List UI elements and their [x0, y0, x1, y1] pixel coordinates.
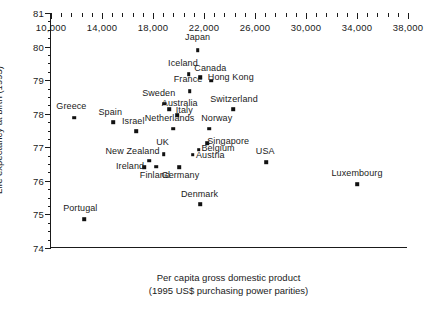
y-tick-minor: [48, 231, 52, 232]
y-tick-minor: [48, 139, 52, 140]
x-tick-minor: [337, 13, 338, 17]
x-tick-major: [102, 13, 103, 19]
y-tick-label: 78: [33, 108, 44, 119]
data-point-label: Israel: [122, 116, 145, 126]
y-tick-minor: [48, 89, 52, 90]
data-point-label: Sweden: [142, 88, 175, 98]
plot-area: 7475767778798081 10,00014,00018,00022,00…: [50, 13, 407, 248]
data-point-label: Switzerland: [210, 94, 258, 104]
data-point-label: Netherlands: [145, 113, 195, 123]
y-tick-minor: [48, 55, 52, 56]
y-tick-label: 74: [33, 243, 44, 254]
x-tick-minor: [112, 13, 113, 17]
data-point: [232, 108, 236, 112]
data-point-label: Spain: [99, 107, 123, 117]
x-tick-minor: [275, 13, 276, 17]
data-point-label: Norway: [201, 113, 232, 123]
data-point-label: France: [174, 74, 203, 84]
x-tick-major: [255, 13, 256, 19]
y-tick-minor: [48, 38, 52, 39]
x-tick-minor: [388, 13, 389, 17]
data-point-label: Portugal: [63, 203, 97, 213]
x-tick-major: [357, 13, 358, 19]
x-tick-minor: [235, 13, 236, 17]
x-tick-label: 18,000: [138, 22, 168, 33]
x-tick-minor: [61, 13, 62, 17]
x-tick-minor: [163, 13, 164, 17]
x-tick-minor: [143, 13, 144, 17]
data-point-label: Austria: [196, 150, 225, 160]
x-tick-minor: [224, 13, 225, 17]
data-point: [207, 127, 211, 131]
y-tick-major: [45, 80, 51, 81]
y-tick-label: 76: [33, 175, 44, 186]
x-tick-major: [51, 13, 52, 19]
data-point: [188, 89, 192, 93]
data-point-label: USA: [256, 146, 275, 156]
x-tick-major: [153, 13, 154, 19]
y-tick-label: 77: [33, 142, 44, 153]
data-point: [172, 127, 176, 131]
y-tick-minor: [48, 131, 52, 132]
x-tick-minor: [173, 13, 174, 17]
y-tick-minor: [48, 240, 52, 241]
y-tick-major: [45, 214, 51, 215]
data-point: [265, 161, 269, 165]
x-tick-minor: [265, 13, 266, 17]
y-tick-minor: [48, 72, 52, 73]
y-tick-minor: [48, 189, 52, 190]
x-tick-label: 30,000: [291, 22, 321, 33]
x-tick-label: 26,000: [240, 22, 270, 33]
x-tick-label: 10,000: [36, 22, 66, 33]
data-point: [82, 218, 86, 222]
y-tick-label: 79: [33, 75, 44, 86]
x-tick-minor: [214, 13, 215, 17]
data-point-label: Denmark: [181, 189, 218, 199]
y-tick-minor: [48, 63, 52, 64]
data-point: [355, 182, 359, 186]
x-tick-minor: [296, 13, 297, 17]
x-tick-label: 38,000: [393, 22, 423, 33]
y-tick-minor: [48, 172, 52, 173]
x-tick-label: 14,000: [87, 22, 117, 33]
data-point-label: Hong Kong: [208, 72, 254, 82]
data-point-label: Luxembourg: [331, 168, 382, 178]
x-tick-minor: [122, 13, 123, 17]
x-tick-minor: [71, 13, 72, 17]
x-tick-minor: [316, 13, 317, 17]
x-tick-major: [408, 13, 409, 19]
data-point: [191, 153, 195, 157]
data-point: [162, 152, 166, 156]
x-tick-minor: [184, 13, 185, 17]
x-tick-minor: [245, 13, 246, 17]
x-tick-minor: [398, 13, 399, 17]
x-tick-minor: [326, 13, 327, 17]
x-tick-minor: [367, 13, 368, 17]
scatter-plot-figure: Life expectancy at birth (1995) 74757677…: [0, 0, 428, 309]
x-tick-minor: [347, 13, 348, 17]
data-point-label: Greece: [56, 101, 86, 111]
data-point: [147, 159, 151, 163]
y-tick-minor: [48, 122, 52, 123]
y-tick-major: [45, 181, 51, 182]
x-tick-major: [204, 13, 205, 19]
data-point: [196, 48, 200, 52]
y-tick-minor: [48, 105, 52, 106]
y-tick-major: [45, 147, 51, 148]
x-tick-minor: [286, 13, 287, 17]
data-point: [167, 108, 171, 112]
y-tick-minor: [48, 164, 52, 165]
y-tick-label: 75: [33, 209, 44, 220]
y-tick-minor: [48, 97, 52, 98]
data-point: [198, 203, 202, 207]
y-tick-major: [45, 248, 51, 249]
x-axis-title: Per capita gross domestic product (1995 …: [50, 271, 407, 297]
y-tick-minor: [48, 198, 52, 199]
x-tick-label: 34,000: [342, 22, 372, 33]
y-tick-minor: [48, 223, 52, 224]
data-point: [154, 165, 158, 169]
y-tick-label: 81: [33, 8, 44, 19]
data-point-label: Japan: [185, 32, 210, 42]
data-point: [112, 120, 116, 124]
x-tick-minor: [194, 13, 195, 17]
